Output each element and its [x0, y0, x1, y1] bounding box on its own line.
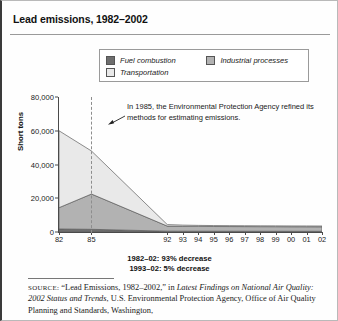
y-tick-label: 0 [2, 228, 54, 237]
y-tick-mark [55, 97, 58, 98]
x-tick-label: 01 [302, 235, 310, 244]
y-tick-mark [55, 198, 58, 199]
x-tick-mark [198, 232, 199, 235]
x-tick-label: 00 [287, 235, 295, 244]
x-tick-mark [183, 232, 184, 235]
y-tick-label: 60,000 [2, 126, 54, 135]
y-tick-mark [55, 232, 58, 233]
legend-row-1: Fuel combustion Industrial processes [106, 54, 302, 66]
x-tick-mark [229, 232, 230, 235]
legend-item-fuel-combustion: Fuel combustion [106, 56, 192, 65]
x-tick-label: 98 [256, 235, 264, 244]
footnote-decrease-1: 1982–02: 93% decrease [2, 254, 337, 263]
x-tick-mark [245, 232, 246, 235]
x-tick-label: 99 [271, 235, 279, 244]
x-tick-mark [59, 232, 60, 235]
x-tick-mark [276, 232, 277, 235]
annotation-marker-line [91, 97, 92, 233]
x-tick-mark [322, 232, 323, 235]
figure-panel: Lead emissions, 1982–2002 Fuel combustio… [0, 0, 338, 321]
y-tick-mark [55, 164, 58, 165]
footnote-decrease-2: 1993–02: 5% decrease [2, 264, 337, 273]
source-note: SOURCE: “Lead Emissions, 1982–2002,” in … [28, 282, 325, 316]
legend-row-2: Transportation [106, 66, 302, 78]
x-tick-label: 93 [179, 235, 187, 244]
x-tick-label: 95 [210, 235, 218, 244]
y-tick-mark [55, 130, 58, 131]
x-tick-mark [260, 232, 261, 235]
x-tick-label: 85 [87, 235, 95, 244]
y-tick-label: 40,000 [2, 160, 54, 169]
x-tick-label: 92 [163, 235, 171, 244]
legend-swatch-icon-industrial-processes [206, 56, 215, 65]
x-axis-line [58, 232, 323, 233]
legend-swatch-icon-fuel-combustion [106, 56, 115, 65]
x-tick-label: 94 [194, 235, 202, 244]
x-tick-label: 96 [225, 235, 233, 244]
annotation-text: In 1985, the Environmental Protection Ag… [127, 102, 317, 123]
legend-label-industrial-processes: Industrial processes [220, 56, 288, 65]
source-part-1: “Lead Emissions, 1982–2002,” in [59, 283, 176, 292]
legend-label-transportation: Transportation [120, 68, 168, 77]
page-title: Lead emissions, 1982–2002 [13, 13, 148, 25]
source-label: SOURCE: [28, 284, 59, 291]
x-tick-mark [291, 232, 292, 235]
x-tick-label: 02 [318, 235, 326, 244]
annotation-arrow-icon [108, 115, 126, 125]
title-divider [10, 34, 330, 35]
legend-label-fuel-combustion: Fuel combustion [120, 56, 176, 65]
y-tick-label: 80,000 [2, 93, 54, 102]
source-divider [28, 278, 114, 279]
legend-item-transportation: Transportation [106, 68, 202, 77]
legend-item-industrial-processes: Industrial processes [206, 56, 288, 65]
x-tick-label: 97 [241, 235, 249, 244]
x-tick-mark [167, 232, 168, 235]
y-tick-label: 20,000 [2, 194, 54, 203]
legend-swatch-icon-transportation [106, 68, 115, 77]
x-tick-mark [214, 232, 215, 235]
chart-legend: Fuel combustion Industrial processes Tra… [99, 49, 309, 82]
x-tick-mark [307, 232, 308, 235]
x-tick-label: 82 [55, 235, 63, 244]
